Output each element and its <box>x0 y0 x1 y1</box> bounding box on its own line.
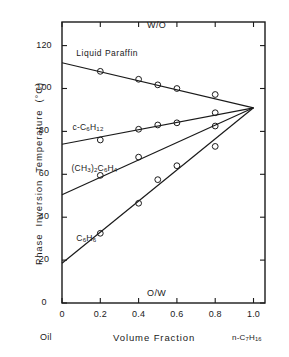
series-label-liquid-paraffin: Liquid Paraffin <box>76 48 138 58</box>
phase-inversion-temperature-chart: Phase Inversion Temperature (°C) Volume … <box>0 0 289 357</box>
y-tick-label-0: 0 <box>32 297 56 307</box>
x-tick-label-0: 0 <box>49 309 75 319</box>
data-point-1-0 <box>97 137 103 143</box>
series-line-2 <box>62 108 254 195</box>
data-point-0-4 <box>212 92 218 98</box>
x-axis-title: Volume Fraction <box>113 332 195 343</box>
x-tick-label-2: 0.4 <box>126 309 152 319</box>
x-axis-left-caption: Oil <box>40 332 52 342</box>
data-point-3-2 <box>155 177 161 183</box>
region-label-o-w: O/W <box>147 288 166 298</box>
y-tick-label-2: 40 <box>32 211 56 221</box>
y-tick-label-1: 20 <box>32 254 56 264</box>
series-label-benzene: C6H6 <box>76 233 96 243</box>
x-tick-label-3: 0.6 <box>164 309 190 319</box>
data-point-1-2 <box>155 122 161 128</box>
y-tick-label-5: 100 <box>32 82 56 92</box>
series-label-cyclohexane: c-C6H12 <box>73 122 104 132</box>
data-point-2-1 <box>136 154 142 160</box>
data-point-0-3 <box>174 86 180 92</box>
data-point-3-4 <box>212 144 218 150</box>
y-tick-label-6: 120 <box>32 40 56 50</box>
y-tick-label-4: 80 <box>32 125 56 135</box>
region-label-w-o: W/O <box>147 20 166 30</box>
x-tick-label-1: 0.2 <box>87 309 113 319</box>
y-tick-label-3: 60 <box>32 168 56 178</box>
data-point-3-3 <box>174 163 180 169</box>
series-line-0 <box>62 63 254 108</box>
x-tick-label-5: 1.0 <box>241 309 267 319</box>
x-axis-right-caption: n-C7H16 <box>232 333 262 342</box>
series-label-xylene: (CH3)2C6H4 <box>72 163 118 173</box>
x-tick-label-4: 0.8 <box>202 309 228 319</box>
